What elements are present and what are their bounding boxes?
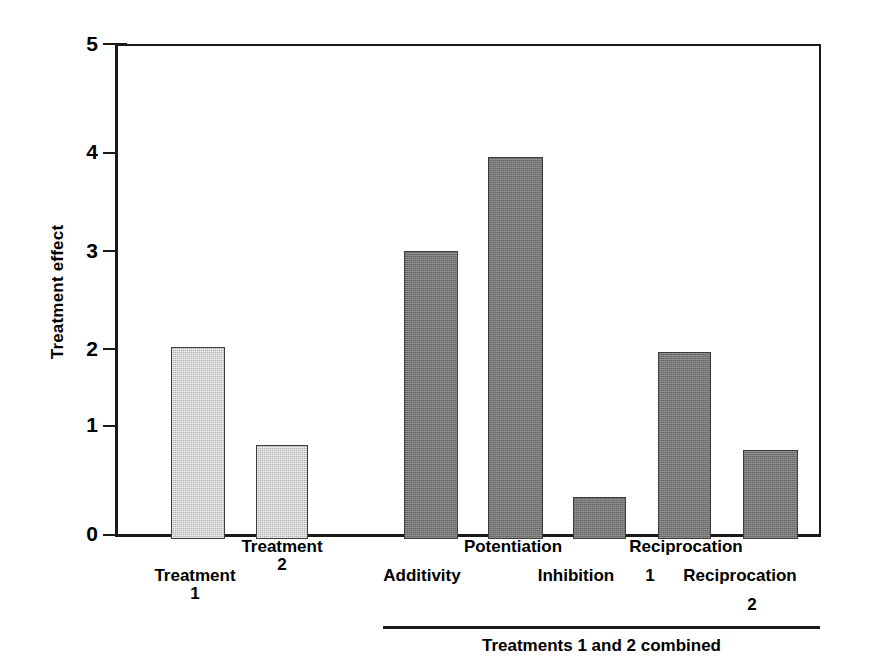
category-label-additivity: Additivity xyxy=(362,567,482,585)
category-label-potentiation: Potentiation xyxy=(443,538,583,556)
bar-treatment-1 xyxy=(171,347,225,539)
y-tick-label-3: 3 xyxy=(64,240,98,261)
category-label-treatment-2-line1: Treatment xyxy=(241,537,322,556)
y-tick-label-4: 4 xyxy=(64,141,98,162)
bar-additivity xyxy=(404,251,458,539)
y-tick-label-1: 1 xyxy=(64,414,98,435)
plot-frame xyxy=(115,44,821,537)
category-label-reciprocation-1-index: 1 xyxy=(636,567,664,585)
group-bracket-rule xyxy=(383,626,820,629)
category-label-treatment-2-line2: 2 xyxy=(277,555,286,574)
bar-inhibition xyxy=(573,497,626,539)
y-tick-label-5: 5 xyxy=(64,33,98,54)
bar-reciprocation-1 xyxy=(658,352,711,539)
plot-area xyxy=(118,46,824,539)
category-label-treatment-2: Treatment 2 xyxy=(215,538,349,574)
category-label-inhibition: Inhibition xyxy=(513,567,639,585)
category-label-reciprocation-2-index: 2 xyxy=(738,596,766,614)
y-tick-label-0: 0 xyxy=(64,523,98,544)
category-label-treatment-1-line2: 1 xyxy=(190,584,199,603)
bar-potentiation xyxy=(488,157,543,539)
bar-reciprocation-2 xyxy=(743,450,798,539)
category-label-reciprocation-1: Reciprocation xyxy=(610,538,762,556)
y-axis-tick-labels: 5 4 3 2 1 0 xyxy=(52,0,98,665)
bar-treatment-2 xyxy=(256,445,308,539)
group-annotation-label: Treatments 1 and 2 combined xyxy=(383,636,820,656)
category-label-reciprocation-2-line1: Reciprocation xyxy=(683,566,796,585)
category-label-reciprocation-2: Reciprocation xyxy=(664,567,816,585)
bar-chart-figure: Treatment effect 5 4 3 2 1 0 Treatment 1… xyxy=(0,0,880,665)
category-label-reciprocation-1-line1: Reciprocation xyxy=(629,537,742,556)
y-tick-label-2: 2 xyxy=(64,338,98,359)
